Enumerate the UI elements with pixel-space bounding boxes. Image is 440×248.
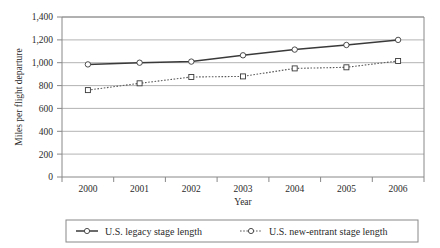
data-point [344,42,349,47]
chart-legend: U.S. legacy stage length U.S. new-entran… [66,220,418,242]
line-chart: 0 200 400 600 800 1,000 1,200 1,400 2000… [0,0,440,248]
x-tick-label-2003: 2003 [234,184,253,194]
data-point [396,59,401,64]
data-point [240,53,245,58]
y-tick-label-1000: 1,000 [32,58,54,68]
legend-item-new-entrant-label: U.S. new-entrant stage length [269,226,388,237]
x-tick-label-2004: 2004 [285,184,304,194]
x-tick-labels: 2000 2001 2002 2003 2004 2005 2006 [78,184,407,194]
data-point [189,75,194,80]
legend-item-legacy-label: U.S. legacy stage length [105,226,202,237]
y-axis-title: Miles per flight departure [14,48,24,145]
data-point [85,62,90,67]
y-tick-marks [57,17,62,177]
y-tick-label-0: 0 [48,172,53,182]
x-tick-label-2005: 2005 [337,184,356,194]
x-tick-marks [62,177,424,182]
data-point [241,74,246,79]
legend-new-entrant-marker-icon [248,228,253,233]
x-tick-label-2001: 2001 [130,184,149,194]
data-point [292,66,297,71]
data-point [344,65,349,70]
data-point [189,59,194,64]
y-tick-label-400: 400 [39,127,54,137]
plot-frame [62,17,424,177]
data-point [137,60,142,65]
x-tick-label-2000: 2000 [78,184,97,194]
x-tick-label-2006: 2006 [389,184,408,194]
y-tick-label-600: 600 [39,104,54,114]
data-point [85,88,90,93]
y-tick-label-200: 200 [39,150,54,160]
data-point [137,81,142,86]
y-tick-label-1400: 1,400 [32,12,54,22]
gridlines [62,17,424,154]
x-axis-title: Year [234,197,252,207]
y-tick-label-800: 800 [39,81,54,91]
chart-figure: 0 200 400 600 800 1,000 1,200 1,400 2000… [0,0,440,248]
data-point [395,37,400,42]
y-tick-label-1200: 1,200 [32,35,54,45]
x-tick-label-2002: 2002 [182,184,201,194]
y-tick-labels: 0 200 400 600 800 1,000 1,200 1,400 [32,12,54,182]
legend-legacy-marker-icon [84,228,89,233]
data-point [292,47,297,52]
